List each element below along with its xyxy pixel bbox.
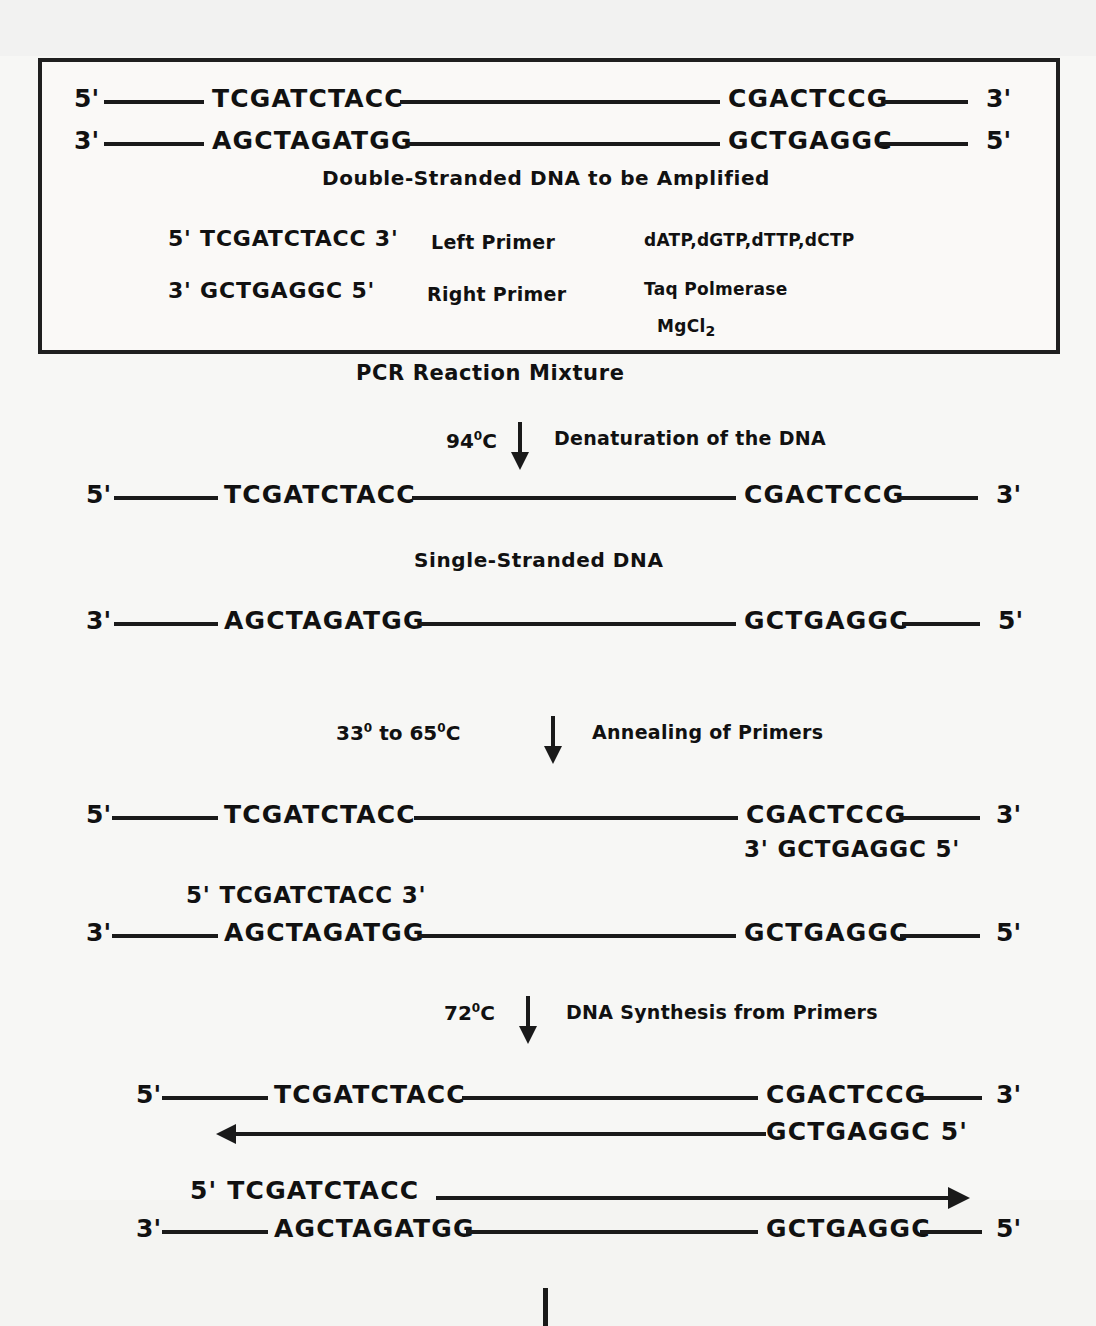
paper-texture-top — [0, 0, 1096, 56]
annealing-temp-value-high: 65 — [409, 721, 437, 745]
annealed-bottom-three-prime: 3' — [86, 920, 111, 945]
denaturation-temp-unit: C — [482, 429, 497, 453]
annealing-temp-degree-low: 0 — [364, 721, 372, 735]
synthesis-top-left-rule — [162, 1096, 268, 1100]
annealing-temp-value-low: 33 — [336, 721, 364, 745]
ssdna-top-middle-rule — [412, 496, 736, 500]
synthesis-new-strand-top: GCTGAGGC 5' — [766, 1119, 968, 1144]
ssdna-top-five-prime: 5' — [86, 482, 111, 507]
synthesis-bottom-right-rule — [920, 1230, 982, 1234]
annealing-temp-to: to — [379, 721, 402, 745]
annealed-top-right-rule — [900, 816, 980, 820]
annealing-step-label: Annealing of Primers — [592, 723, 823, 742]
template-top-right-rule — [884, 100, 968, 104]
pcr-diagram-page: 5' TCGATCTACC CGACTCCG 3' 3' AGCTAGATGG … — [0, 0, 1096, 1326]
single-stranded-dna-caption: Single-Stranded DNA — [414, 550, 663, 570]
annealed-top-left-sequence: TCGATCTACC — [224, 802, 416, 827]
annealed-bottom-left-sequence: AGCTAGATGG — [224, 920, 425, 945]
template-top-five-prime: 5' — [74, 86, 99, 111]
template-bottom-three-prime: 3' — [74, 128, 99, 153]
annealed-bottom-five-prime: 5' — [996, 920, 1021, 945]
reagent-mgcl2: MgCl2 — [657, 318, 716, 338]
synthesis-bottom-five-prime: 5' — [996, 1216, 1021, 1241]
annealed-bottom-right-rule — [900, 934, 980, 938]
ssdna-top-left-sequence: TCGATCTACC — [224, 482, 416, 507]
right-primer-name: Right Primer — [427, 283, 566, 305]
template-top-left-rule — [104, 100, 204, 104]
synthesis-temp-degree: 0 — [472, 1001, 480, 1015]
annealed-left-primer: 5' TCGATCTACC 3' — [186, 884, 426, 907]
leftward-synthesis-arrow-icon — [216, 1118, 766, 1150]
synthesis-temp-value: 72 — [444, 1001, 472, 1025]
annealed-bottom-left-rule — [112, 934, 218, 938]
synthesis-temperature: 720C — [444, 1002, 495, 1023]
template-bottom-five-prime: 5' — [986, 128, 1011, 153]
ssdna-bottom-left-rule — [114, 622, 218, 626]
template-top-right-sequence: CGACTCCG — [728, 86, 888, 111]
denaturation-step-label: Denaturation of the DNA — [554, 429, 826, 448]
denaturation-temp-degree: 0 — [474, 429, 482, 443]
ssdna-top-right-rule — [900, 496, 978, 500]
ssdna-bottom-middle-rule — [420, 622, 736, 626]
annealing-temp-degree-high: 0 — [437, 721, 445, 735]
synthesis-bottom-left-sequence: AGCTAGATGG — [274, 1216, 475, 1241]
synthesis-new-strand-bottom: 5' TCGATCTACC — [190, 1178, 419, 1203]
template-bottom-right-rule — [880, 142, 968, 146]
synthesis-bottom-middle-rule — [466, 1230, 758, 1234]
annealed-bottom-right-sequence: GCTGAGGC — [744, 920, 909, 945]
synthesis-bottom-right-sequence: GCTGAGGC — [766, 1216, 931, 1241]
ssdna-top-left-rule — [114, 496, 218, 500]
template-top-left-sequence: TCGATCTACC — [212, 86, 404, 111]
annealed-top-right-sequence: CGACTCCG — [746, 802, 906, 827]
double-stranded-dna-caption: Double-Stranded DNA to be Amplified — [322, 168, 770, 188]
template-bottom-left-rule — [104, 142, 204, 146]
synthesis-top-left-sequence: TCGATCTACC — [274, 1082, 466, 1107]
annealing-temp-unit: C — [446, 721, 461, 745]
annealing-arrow-icon — [533, 714, 573, 766]
template-bottom-middle-rule — [408, 142, 720, 146]
synthesis-top-right-sequence: CGACTCCG — [766, 1082, 926, 1107]
annealed-top-middle-rule — [414, 816, 738, 820]
denaturation-temperature: 940C — [446, 430, 497, 451]
rightward-synthesis-arrow-icon — [436, 1182, 970, 1214]
synthesis-bottom-left-rule — [162, 1230, 268, 1234]
denaturation-temp-value: 94 — [446, 429, 474, 453]
template-bottom-right-sequence: GCTGAGGC — [728, 128, 893, 153]
denaturation-arrow-icon — [500, 420, 540, 472]
synthesis-top-five-prime: 5' — [136, 1082, 161, 1107]
template-top-middle-rule — [400, 100, 720, 104]
annealed-top-five-prime: 5' — [86, 802, 111, 827]
synthesis-step-label: DNA Synthesis from Primers — [566, 1003, 878, 1022]
reagent-taq-polymerase: Taq Polmerase — [644, 281, 788, 298]
paper-texture-bottom — [0, 1200, 1096, 1326]
synthesis-top-three-prime: 3' — [996, 1082, 1021, 1107]
template-bottom-left-sequence: AGCTAGATGG — [212, 128, 413, 153]
ssdna-bottom-left-sequence: AGCTAGATGG — [224, 608, 425, 633]
synthesis-top-right-rule — [920, 1096, 982, 1100]
cycle-continuation-line — [543, 1288, 548, 1326]
pcr-reaction-mixture-title: PCR Reaction Mixture — [356, 363, 624, 384]
synthesis-temp-unit: C — [480, 1001, 495, 1025]
ssdna-top-three-prime: 3' — [996, 482, 1021, 507]
ssdna-bottom-right-rule — [902, 622, 980, 626]
synthesis-arrow-icon — [508, 994, 548, 1046]
left-primer-sequence: 5' TCGATCTACC 3' — [168, 228, 399, 250]
annealed-right-primer: 3' GCTGAGGC 5' — [744, 838, 960, 861]
annealed-top-left-rule — [112, 816, 218, 820]
ssdna-bottom-right-sequence: GCTGAGGC — [744, 608, 909, 633]
ssdna-top-right-sequence: CGACTCCG — [744, 482, 904, 507]
reagent-mgcl2-base: MgCl — [657, 316, 706, 336]
reagent-mgcl2-subscript: 2 — [706, 323, 716, 339]
ssdna-bottom-five-prime: 5' — [998, 608, 1023, 633]
ssdna-bottom-three-prime: 3' — [86, 608, 111, 633]
reagent-dntps: dATP,dGTP,dTTP,dCTP — [644, 232, 855, 249]
synthesis-bottom-three-prime: 3' — [136, 1216, 161, 1241]
annealed-bottom-middle-rule — [420, 934, 736, 938]
left-primer-name: Left Primer — [431, 231, 555, 253]
annealed-top-three-prime: 3' — [996, 802, 1021, 827]
template-top-three-prime: 3' — [986, 86, 1011, 111]
synthesis-top-middle-rule — [462, 1096, 758, 1100]
right-primer-sequence: 3' GCTGAGGC 5' — [168, 280, 375, 302]
annealing-temperature: 330 to 650C — [336, 722, 460, 743]
